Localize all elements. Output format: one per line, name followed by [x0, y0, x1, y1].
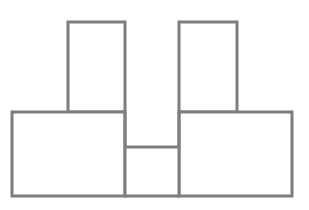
rectangle-figure: [0, 0, 309, 210]
figure-canvas: [0, 0, 309, 210]
lower-left-rectangle: [12, 112, 125, 196]
center-bottom-rectangle: [125, 147, 179, 196]
upper-right-rectangle: [179, 22, 237, 112]
upper-left-rectangle: [68, 22, 125, 112]
segment-layer: [125, 112, 179, 147]
lower-right-rectangle: [179, 112, 292, 196]
shape-layer: [12, 22, 292, 196]
